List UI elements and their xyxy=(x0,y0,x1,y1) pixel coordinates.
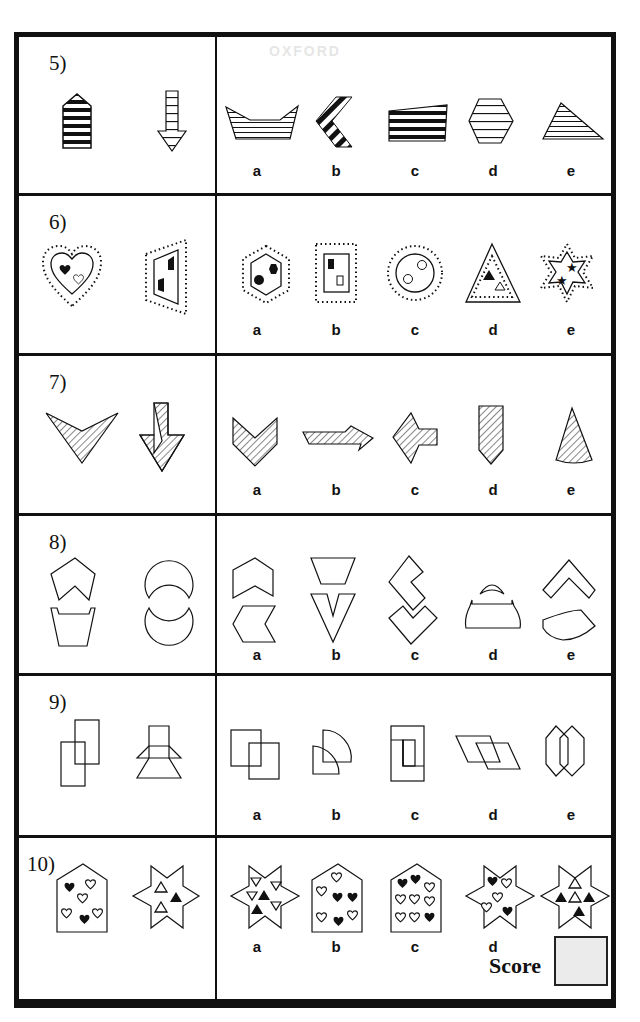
question-number: 7) xyxy=(49,370,67,395)
option-c-nested-rects-icon[interactable] xyxy=(389,724,429,786)
given-shape-striped-arrow-icon xyxy=(154,89,194,159)
option-e-overlapping-hexagons-icon[interactable] xyxy=(544,724,588,782)
option-c-house-hearts-icon[interactable] xyxy=(389,862,445,936)
given-shape-heart-icon xyxy=(41,244,103,310)
question-10-row: 10) xyxy=(19,838,611,1004)
question-number: 8) xyxy=(49,530,67,555)
given-shape-trapezoid-icon xyxy=(144,238,194,318)
option-e-label[interactable]: e xyxy=(561,162,581,179)
option-e-cone-icon[interactable] xyxy=(554,406,596,468)
option-a-star-triangles-icon[interactable] xyxy=(229,864,303,932)
given-shape-overlapping-trapezoids-icon xyxy=(135,724,185,782)
option-a-boat-icon[interactable] xyxy=(224,102,304,147)
option-b-label[interactable]: b xyxy=(326,162,346,179)
svg-text:★: ★ xyxy=(556,273,568,288)
question-number: 6) xyxy=(49,210,67,235)
given-shape-split-pentagon-icon xyxy=(49,556,99,656)
option-c-label[interactable]: c xyxy=(405,321,425,338)
option-e-chevron-band-icon[interactable] xyxy=(541,558,601,653)
option-b-label[interactable]: b xyxy=(326,646,346,663)
option-a-label[interactable]: a xyxy=(247,321,267,338)
option-c-l-pieces-icon[interactable] xyxy=(387,554,443,654)
question-8-row: 8) a b c d e xyxy=(19,516,611,676)
option-e-label[interactable]: e xyxy=(561,481,581,498)
given-shape-split-circle-icon xyxy=(141,556,197,656)
option-e-star-icon[interactable]: ★ ★ xyxy=(537,242,597,306)
option-c-label[interactable]: c xyxy=(405,938,425,955)
option-d-star-hearts-icon[interactable] xyxy=(464,864,538,932)
question-7-row: 7) a b c d e xyxy=(19,356,611,516)
option-c-label[interactable]: c xyxy=(405,646,425,663)
option-b-label[interactable]: b xyxy=(326,321,346,338)
column-divider xyxy=(215,516,217,673)
option-a-label[interactable]: a xyxy=(247,481,267,498)
option-e-label[interactable]: e xyxy=(561,646,581,663)
option-e-label[interactable]: e xyxy=(561,806,581,823)
option-c-striped-quad-icon[interactable] xyxy=(387,103,452,148)
option-d-label[interactable]: d xyxy=(483,646,503,663)
option-b-label[interactable]: b xyxy=(326,806,346,823)
option-b-label[interactable]: b xyxy=(326,938,346,955)
given-shape-arrowhead-icon xyxy=(44,411,120,466)
score-input-box[interactable] xyxy=(554,936,608,986)
option-d-pencil-icon[interactable] xyxy=(477,404,507,468)
option-e-triangle-icon[interactable] xyxy=(541,101,611,143)
option-a-hexagon-icon[interactable] xyxy=(241,244,291,306)
option-b-rectangle-icon[interactable] xyxy=(314,242,360,306)
option-c-label[interactable]: c xyxy=(405,806,425,823)
option-d-arc-dome-icon[interactable] xyxy=(464,576,524,646)
option-c-label[interactable]: c xyxy=(405,162,425,179)
option-b-trapezoid-v-icon[interactable] xyxy=(309,556,369,656)
score-label: Score xyxy=(489,953,541,979)
option-b-chevron-icon[interactable] xyxy=(314,95,364,150)
given-shape-overlapping-rects-icon xyxy=(59,718,109,788)
given-shape-striped-house-icon xyxy=(59,92,99,152)
option-c-left-arrow-icon[interactable] xyxy=(391,411,451,466)
column-divider xyxy=(215,676,217,835)
option-b-right-arrow-icon[interactable] xyxy=(301,424,381,456)
option-e-star-triangles-icon[interactable] xyxy=(539,864,613,932)
option-d-label[interactable]: d xyxy=(483,321,503,338)
option-e-label[interactable]: e xyxy=(561,321,581,338)
option-c-label[interactable]: c xyxy=(405,481,425,498)
option-d-label[interactable]: d xyxy=(483,162,503,179)
option-d-hexagon-icon[interactable] xyxy=(467,97,517,147)
option-b-house-hearts-icon[interactable] xyxy=(310,862,366,936)
option-c-circle-icon[interactable] xyxy=(386,244,446,304)
option-a-pentagon-chevron-icon[interactable] xyxy=(231,556,281,656)
question-6-row: 6) xyxy=(19,196,611,356)
column-divider xyxy=(215,37,217,193)
option-a-overlapping-squares-icon[interactable] xyxy=(229,728,283,784)
question-9-row: 9) xyxy=(19,676,611,838)
option-d-label[interactable]: d xyxy=(483,806,503,823)
given-shape-house-hearts-icon xyxy=(55,862,111,936)
option-d-parallelograms-icon[interactable] xyxy=(454,734,524,774)
option-b-quarter-circles-icon[interactable] xyxy=(311,728,361,778)
option-a-label[interactable]: a xyxy=(247,938,267,955)
option-d-triangle-icon[interactable] xyxy=(464,242,524,306)
option-b-label[interactable]: b xyxy=(326,481,346,498)
given-shape-star-triangles-icon xyxy=(131,864,201,932)
option-a-label[interactable]: a xyxy=(247,162,267,179)
question-number: 5) xyxy=(49,51,67,76)
option-a-label[interactable]: a xyxy=(247,806,267,823)
question-number: 10) xyxy=(27,852,55,877)
given-shape-down-arrow-icon xyxy=(134,401,194,476)
option-d-label[interactable]: d xyxy=(483,481,503,498)
column-divider xyxy=(215,838,217,1004)
question-number: 9) xyxy=(49,690,67,715)
question-5-row: 5) a b c d e xyxy=(19,37,611,196)
option-a-chevron-icon[interactable] xyxy=(231,416,283,472)
column-divider xyxy=(215,356,217,513)
question-sheet: OXFORD 5) a b c d e 6) xyxy=(14,32,616,1008)
option-a-label[interactable]: a xyxy=(247,646,267,663)
column-divider xyxy=(215,196,217,353)
